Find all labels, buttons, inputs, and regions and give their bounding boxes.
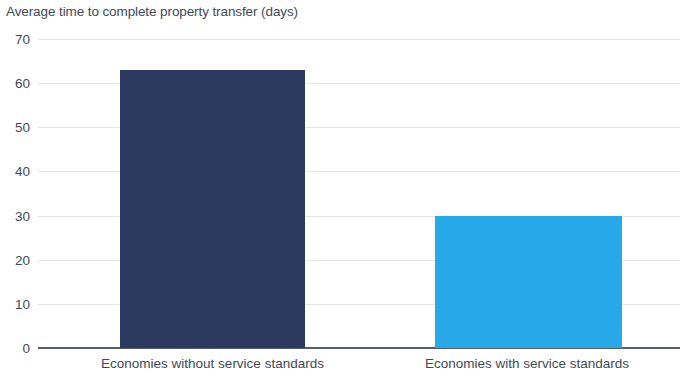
y-axis-tick-label: 30 xyxy=(0,208,30,223)
y-axis-tick-label: 40 xyxy=(0,164,30,179)
y-axis-tick-label: 50 xyxy=(0,120,30,135)
bar-chart: Average time to complete property transf… xyxy=(0,0,684,380)
bar-1 xyxy=(435,216,622,348)
y-axis-tick-label: 60 xyxy=(0,76,30,91)
y-axis-tick-label: 70 xyxy=(0,32,30,47)
bar-0 xyxy=(120,70,305,348)
y-axis-tick-label: 20 xyxy=(0,252,30,267)
y-axis-tick-label: 0 xyxy=(0,341,30,356)
x-axis-category-label: Economies without service standards xyxy=(20,356,405,371)
x-axis-category-label: Economies with service standards xyxy=(370,356,684,371)
y-axis-tick-label: 10 xyxy=(0,296,30,311)
plot-area: 706050403020100Economies without service… xyxy=(0,0,684,380)
gridline xyxy=(38,39,680,40)
